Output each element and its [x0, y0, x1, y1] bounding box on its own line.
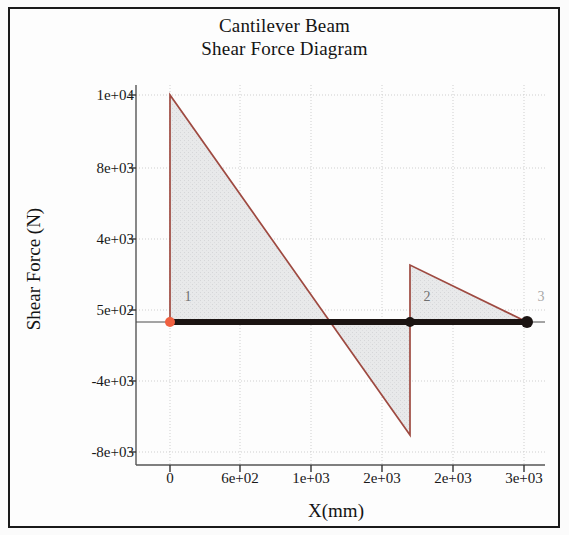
node-marker-2: [405, 317, 415, 327]
node-label-3: 3: [538, 289, 545, 305]
node-label-1: 1: [185, 289, 192, 305]
node-marker-1: [165, 317, 175, 327]
plot-area: [0, 0, 569, 535]
node-label-2: 2: [424, 289, 431, 305]
node-marker-3: [521, 316, 533, 328]
figure-page: Cantilever Beam Shear Force Diagram Shea…: [0, 0, 569, 535]
y-tick-marks: [129, 95, 136, 452]
x-tick-marks: [170, 465, 524, 472]
chart-figure: Cantilever Beam Shear Force Diagram Shea…: [0, 0, 569, 535]
